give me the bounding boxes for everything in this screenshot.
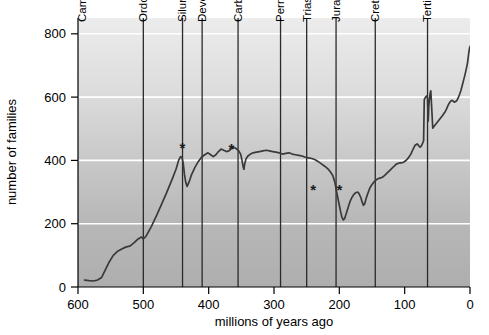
period-label-devonian: Devonian — [196, 0, 208, 22]
extinction-chart-figure: **** CambrianOrdovicianSilurianDevonianC… — [0, 0, 489, 335]
period-label-jurassic: Jurassic — [330, 0, 342, 22]
period-label-cretaceous: Cretaceous — [369, 0, 381, 22]
period-label-carboniferous: Carboniferous — [232, 0, 244, 22]
marker-permian-triassic-extinction: * — [310, 181, 316, 198]
x-tick-label-0: 0 — [466, 297, 473, 312]
chart-svg: **** CambrianOrdovicianSilurianDevonianC… — [0, 0, 489, 335]
x-tick-label-200: 200 — [328, 297, 350, 312]
y-axis-label: number of families — [4, 98, 19, 205]
x-tick-label-500: 500 — [132, 297, 154, 312]
marker-triassic-jurassic-extinction: * — [336, 181, 342, 198]
y-tick-label-800: 800 — [44, 26, 66, 41]
period-label-permian: Permian — [274, 0, 286, 22]
x-tick-label-100: 100 — [394, 297, 416, 312]
y-tick-label-200: 200 — [44, 216, 66, 231]
x-tick-label-400: 400 — [198, 297, 220, 312]
y-tick-label-600: 600 — [44, 90, 66, 105]
marker-ordovician-silurian-extinction: * — [180, 139, 186, 156]
x-tick-label-600: 600 — [67, 297, 89, 312]
x-axis-label: millions of years ago — [215, 314, 334, 329]
x-tick-label-300: 300 — [263, 297, 285, 312]
marker-late-devonian-extinction: * — [229, 140, 235, 157]
period-label-triassic: Triassic — [301, 0, 313, 22]
period-label-ordovician: Ordovician — [137, 0, 149, 22]
period-label-tertiary: Tertiary — [421, 0, 433, 22]
y-tick-label-400: 400 — [44, 153, 66, 168]
period-label-silurian: Silurian — [176, 0, 188, 22]
y-tick-label-0: 0 — [59, 280, 66, 295]
